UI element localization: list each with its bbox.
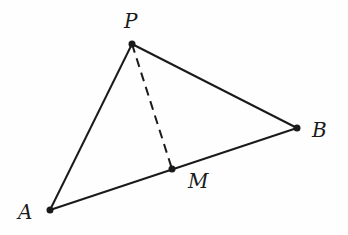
label-M: M [187,169,209,193]
label-A: A [16,200,32,224]
diagram-canvas: P B M A [0,0,348,235]
segment-PM-dashed [132,44,172,169]
segment-PA [50,44,132,210]
triangle-diagram: P B M A [0,0,348,235]
point-M [169,166,176,173]
point-A [47,207,54,214]
label-B: B [311,118,327,142]
label-P: P [123,9,138,33]
segment-PB [132,44,297,128]
point-P [129,41,136,48]
point-B [294,125,301,132]
